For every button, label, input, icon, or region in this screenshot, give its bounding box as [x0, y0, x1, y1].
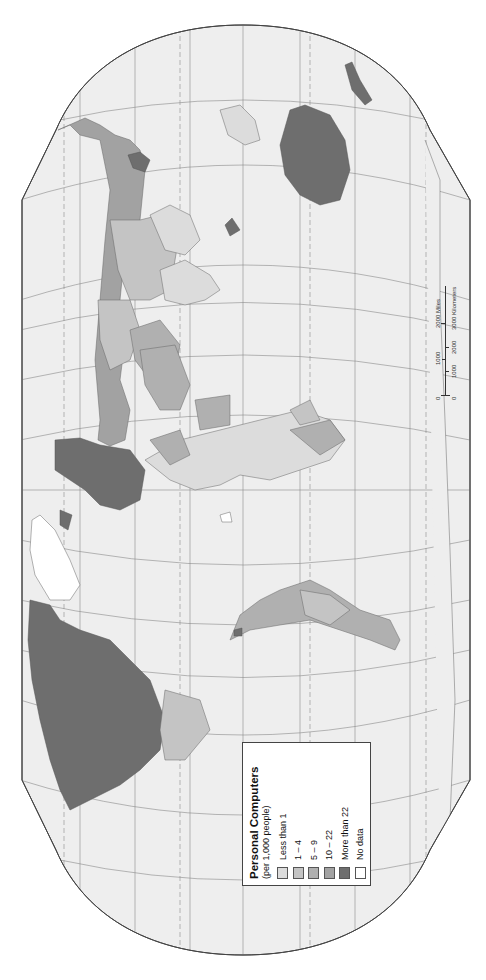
- legend: Personal Computers (per 1,000 people) Le…: [242, 742, 371, 886]
- scale-miles-1000: 1000: [435, 352, 441, 365]
- legend-item: 10 – 22: [322, 749, 338, 879]
- scale-km-3000: 3000 Kilometers: [451, 287, 457, 330]
- legend-swatch: [355, 867, 366, 879]
- scale-bar: 0 1000 2000 Miles 0 1000 2000 3000 Kilom…: [430, 260, 462, 400]
- legend-swatch: [277, 867, 288, 879]
- scale-km-1000: 1000: [451, 365, 457, 378]
- legend-subtitle: (per 1,000 people): [261, 749, 272, 879]
- legend-swatch: [339, 867, 350, 879]
- scale-km-2000: 2000: [451, 341, 457, 354]
- legend-label: More than 22: [340, 807, 350, 860]
- scale-miles-0: 0: [435, 397, 441, 400]
- legend-label: 5 – 9: [309, 840, 319, 860]
- legend-item: More than 22: [337, 749, 353, 879]
- legend-item: Less than 1: [275, 749, 291, 879]
- scale-km-0: 0: [451, 397, 457, 400]
- legend-swatch: [308, 867, 319, 879]
- legend-label: Less than 1: [278, 813, 288, 860]
- legend-swatch: [293, 867, 304, 879]
- legend-label: No data: [355, 828, 365, 860]
- legend-item: 1 – 4: [291, 749, 307, 879]
- legend-label: 1 – 4: [293, 840, 303, 860]
- legend-item: 5 – 9: [306, 749, 322, 879]
- legend-swatch: [324, 867, 335, 879]
- legend-item: No data: [353, 749, 369, 879]
- legend-title: Personal Computers: [248, 749, 261, 879]
- legend-label: 10 – 22: [324, 830, 334, 860]
